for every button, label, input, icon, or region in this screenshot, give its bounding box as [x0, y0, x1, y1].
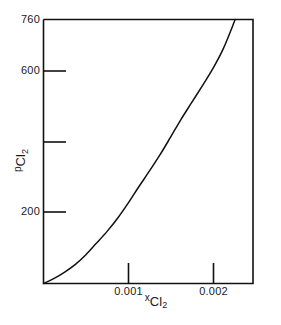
ytick-label-760: 760 [2, 13, 40, 25]
ytick-label-200: 200 [2, 205, 40, 217]
ytick-label-600: 600 [2, 64, 40, 76]
axis-frame [44, 20, 254, 284]
plot-canvas [0, 0, 281, 325]
y-axis-label-prefix: p [11, 167, 22, 173]
x-axis-label: xCl2 [108, 291, 204, 310]
x-axis-label-main: Cl [150, 293, 162, 308]
y-axis-label: pCl2 [4, 132, 38, 190]
y-axis-label-subscript: 2 [20, 150, 30, 155]
y-axis-label-main: Cl [13, 155, 28, 167]
data-curve-pcl2 [44, 20, 236, 284]
x-axis-label-subscript: 2 [162, 300, 167, 310]
chart-figure: 760 600 200 0.001 0.002 pCl2 xCl2 [0, 0, 281, 325]
